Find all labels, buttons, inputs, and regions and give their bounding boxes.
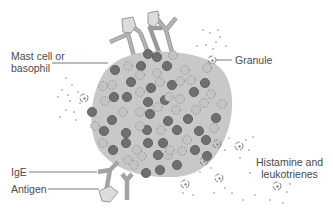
label-mast-cell-line1: Mast cell or [11, 50, 65, 62]
antigen-top-1 [122, 17, 136, 33]
label-antigen: Antigen [11, 183, 47, 195]
label-histamine-line2: leukotrienes [256, 168, 323, 180]
label-histamine-line1: Histamine and [256, 156, 323, 168]
mast-cell-diagram [0, 0, 333, 212]
label-ige: IgE [11, 166, 27, 178]
antigen-top-2 [148, 11, 159, 27]
label-histamine: Histamine and leukotrienes [256, 156, 323, 180]
antigen-bottom [99, 186, 118, 202]
label-mast-cell: Mast cell or basophil [11, 50, 65, 74]
label-granule: Granule [235, 54, 272, 66]
label-mast-cell-line2: basophil [11, 62, 65, 74]
